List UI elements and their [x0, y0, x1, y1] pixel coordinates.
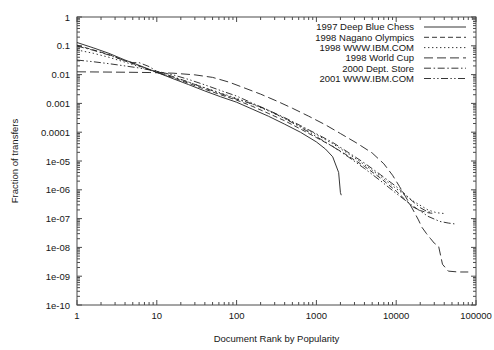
plot-frame	[77, 17, 476, 305]
chart-svg: 11010010001000010000010.10.010.0010.0001…	[0, 0, 494, 350]
y-tick-label: 1e-07	[46, 213, 70, 224]
x-tick-label: 100	[229, 310, 245, 321]
series-line-3	[77, 72, 468, 272]
legend-label-5: 2001 WWW.IBM.COM	[320, 73, 415, 84]
x-tick-label: 1	[74, 310, 79, 321]
y-tick-label: 1e-08	[46, 242, 70, 253]
y-tick-label: 1e-05	[46, 156, 70, 167]
y-tick-label: 1	[65, 12, 70, 23]
y-tick-label: 0.001	[46, 98, 70, 109]
y-tick-label: 0.1	[57, 40, 70, 51]
y-axis-title: Fraction of transfers	[9, 119, 20, 204]
y-tick-label: 0.0001	[41, 127, 70, 138]
y-tick-label: 0.01	[52, 69, 71, 80]
y-tick-label: 1e-10	[46, 300, 70, 311]
x-tick-label: 100000	[460, 310, 492, 321]
y-tick-label: 1e-06	[46, 184, 70, 195]
y-tick-label: 1e-09	[46, 271, 70, 282]
x-tick-label: 10000	[383, 310, 409, 321]
x-tick-label: 1000	[306, 310, 327, 321]
series-line-0	[77, 43, 341, 196]
chart-container: 11010010001000010000010.10.010.0010.0001…	[0, 0, 494, 350]
series-line-5	[77, 60, 455, 224]
x-tick-label: 10	[152, 310, 163, 321]
x-axis-title: Document Rank by Popularity	[214, 333, 340, 344]
